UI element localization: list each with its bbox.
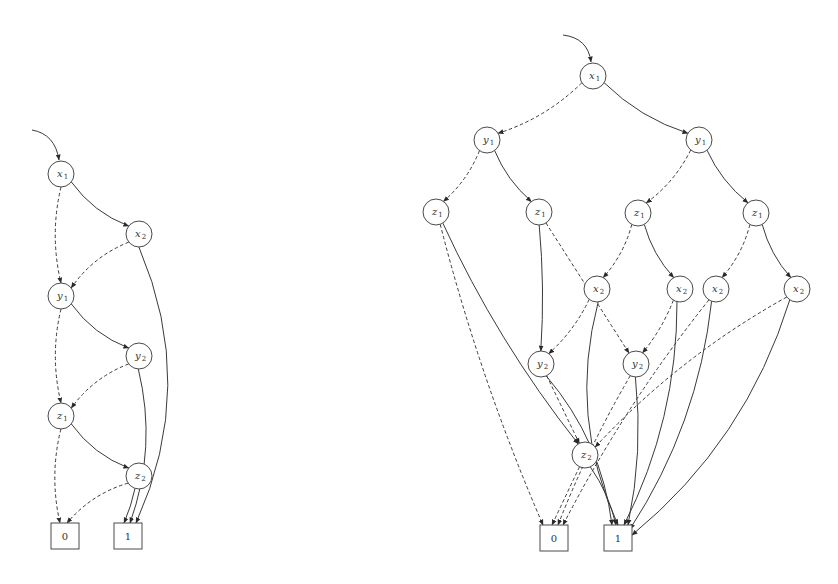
high-edge-R_y1b-to-R_z1d xyxy=(707,150,748,203)
bdd-node-z1: z1 xyxy=(526,199,552,225)
low-edge-R_x2a-to-R_y2a xyxy=(549,299,589,353)
left-nodes: x1x2y1y2z1z201 xyxy=(48,161,152,549)
terminal-1: 1 xyxy=(114,523,142,549)
high-edge-R_z1c-to-R_x2b xyxy=(644,224,673,277)
terminal-label: 0 xyxy=(551,533,557,544)
low-edge-R_z1c-to-R_x2a xyxy=(603,224,632,277)
bdd-node-x2: x2 xyxy=(703,276,729,302)
bdd-node-y2: y2 xyxy=(528,351,554,377)
terminal-label: 0 xyxy=(62,531,68,542)
entry-arrow xyxy=(563,35,591,62)
bdd-node-z2: z2 xyxy=(572,442,598,468)
bdd-node-z2: z2 xyxy=(126,463,152,489)
low-edge-L_y1-to-L_z1 xyxy=(55,309,61,403)
high-edge-R_x1-to-R_y1b xyxy=(604,83,688,134)
high-edge-R_y1a-to-R_z1b xyxy=(495,151,532,202)
bdd-node-z1: z1 xyxy=(423,199,449,225)
bdd-node-x2: x2 xyxy=(126,221,152,247)
bdd-node-z1: z1 xyxy=(48,403,74,429)
low-edge-L_y2-to-L_z1 xyxy=(71,364,128,408)
bdd-node-x1: x1 xyxy=(48,161,74,187)
low-edge-R_y1a-to-R_z1a xyxy=(444,151,480,202)
low-edge-R_x2d-to-R_z2 xyxy=(595,297,787,447)
low-edge-R_z1d-to-R_x2c xyxy=(722,225,750,278)
high-edge-R_z1d-to-R_x2d xyxy=(762,224,791,277)
bdd-node-z1: z1 xyxy=(625,200,651,226)
left-bdd-diagram: x1x2y1y2z1z201 xyxy=(32,130,168,549)
bdd-node-x2: x2 xyxy=(667,276,693,302)
terminal-label: 1 xyxy=(125,531,131,542)
bdd-node-y1: y1 xyxy=(48,283,74,309)
bdd-node-y1: y1 xyxy=(686,127,712,153)
bdd-node-y1: y1 xyxy=(474,127,500,153)
low-edge-L_x2-to-L_y1 xyxy=(71,242,129,288)
right-edges xyxy=(440,35,791,535)
high-edge-R_x2a-to-R_1 xyxy=(587,302,618,525)
terminal-1: 1 xyxy=(604,525,632,551)
right-bdd-diagram: x1y1y1z1z1z1z1x2x2x2x2y2y2z201 xyxy=(423,35,810,551)
right-nodes: x1y1y1z1z1z1z1x2x2x2x2y2y2z201 xyxy=(423,63,810,551)
high-edge-L_z2-to-L_1 xyxy=(124,488,135,523)
low-edge-L_z2-to-L_0 xyxy=(67,483,128,523)
low-edge-R_y1b-to-R_z1c xyxy=(646,150,690,203)
bdd-node-x2: x2 xyxy=(584,276,610,302)
terminal-label: 1 xyxy=(615,533,621,544)
entry-arrow xyxy=(32,130,59,160)
high-edge-L_z1-to-L_z2 xyxy=(71,424,128,468)
high-edge-R_x2c-to-R_1 xyxy=(630,301,712,529)
high-edge-R_z1b-to-R_y2a xyxy=(539,225,542,351)
bdd-node-y2: y2 xyxy=(126,343,152,369)
bdd-node-z1: z1 xyxy=(743,200,769,226)
low-edge-R_z2-to-R_0 xyxy=(552,467,580,525)
terminal-0: 0 xyxy=(540,525,568,551)
terminal-0: 0 xyxy=(51,523,79,549)
bdd-node-y2: y2 xyxy=(623,351,649,377)
high-edge-R_z1a-to-R_z2 xyxy=(443,223,578,444)
low-edge-L_z1-to-L_0 xyxy=(55,429,61,523)
bdd-node-x1: x1 xyxy=(580,63,606,89)
high-edge-L_x1-to-L_x2 xyxy=(71,182,128,226)
high-edge-R_z2-to-R_1 xyxy=(590,467,616,525)
low-edge-R_x1-to-R_y1a xyxy=(498,83,582,134)
low-edge-R_x2b-to-R_y2b xyxy=(643,300,674,353)
low-edge-L_x1-to-L_y1 xyxy=(55,187,61,283)
left-edges xyxy=(32,130,168,523)
high-edge-L_y1-to-L_y2 xyxy=(71,304,128,348)
bdd-diagram-canvas: x1x2y1y2z1z201 x1y1y1z1z1z1z1x2x2x2x2y2y… xyxy=(0,0,838,584)
bdd-node-x2: x2 xyxy=(784,276,810,302)
high-edge-R_x2b-to-R_1 xyxy=(624,302,677,525)
